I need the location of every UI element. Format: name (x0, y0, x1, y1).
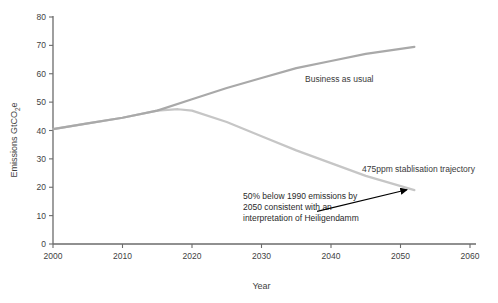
annotation-group: 50% below 1990 emissions by2050 consiste… (243, 190, 407, 223)
x-tick-group: 2000201020202030204020502060 (44, 244, 480, 261)
x-tick-label: 2040 (322, 251, 341, 261)
series-label-business-as-usual: Business as usual (305, 74, 374, 84)
x-axis: 2000201020202030204020502060 (44, 244, 480, 261)
svg-text:Emissions GtCO2e: Emissions GtCO2e (9, 102, 21, 177)
y-axis-title-pre: Emissions GtCO (9, 111, 19, 178)
y-tick-label: 80 (37, 12, 47, 22)
x-tick-label: 2050 (391, 251, 410, 261)
y-tick-label: 70 (37, 40, 47, 50)
y-tick-label: 40 (37, 126, 47, 136)
emissions-chart: 01020304050607080 2000201020202030204020… (0, 0, 498, 303)
series-line-0 (53, 47, 414, 129)
annotation-line: 50% below 1990 emissions by (243, 191, 358, 201)
y-tick-group: 01020304050607080 (37, 12, 53, 249)
y-tick-label: 0 (41, 239, 46, 249)
series-group: Business as usual475ppm stablisation tra… (53, 47, 476, 190)
y-tick-label: 10 (37, 211, 47, 221)
y-tick-label: 50 (37, 97, 47, 107)
y-tick-label: 30 (37, 154, 47, 164)
chart-canvas: 01020304050607080 2000201020202030204020… (0, 0, 498, 303)
series-label-stabilisation: 475ppm stablisation trajectory (362, 164, 476, 174)
y-tick-label: 20 (37, 182, 47, 192)
x-tick-label: 2060 (461, 251, 480, 261)
annotation-line: interpretation of Heiligendamm (243, 213, 359, 223)
series-line-1 (53, 109, 414, 190)
x-tick-label: 2030 (252, 251, 271, 261)
y-axis: 01020304050607080 (37, 12, 53, 249)
x-axis-title: Year (252, 281, 270, 291)
y-axis-title-post: e (9, 102, 19, 107)
x-tick-label: 2010 (113, 251, 132, 261)
x-tick-label: 2000 (44, 251, 63, 261)
y-axis-title: Emissions GtCO2e (9, 102, 21, 177)
y-tick-label: 60 (37, 69, 47, 79)
x-tick-label: 2020 (183, 251, 202, 261)
